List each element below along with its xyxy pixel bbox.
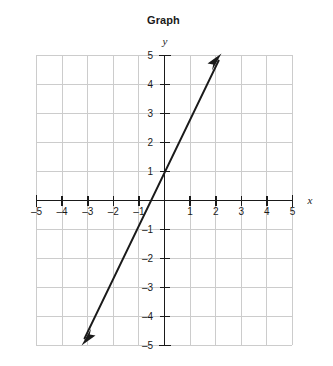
line-segment xyxy=(85,61,219,339)
x-tick-label-neg3: –3 xyxy=(82,206,94,217)
x-tick-label-neg4: –4 xyxy=(57,206,69,217)
coordinate-plane: –5 –4 –3 –2 –1 1 2 3 4 5 5 4 3 2 1 –1 –2… xyxy=(0,0,333,366)
graph-figure: Graph xyxy=(0,0,333,366)
x-tick-label-pos3: 3 xyxy=(239,206,245,217)
y-tick-label-neg5: –5 xyxy=(142,340,154,351)
y-tick-label-pos5: 5 xyxy=(147,50,153,61)
y-tick-label-neg2: –2 xyxy=(142,253,154,264)
y-tick-label-neg1: –1 xyxy=(142,224,154,235)
y-tick-label-pos1: 1 xyxy=(147,166,153,177)
axis-lines xyxy=(36,55,292,345)
x-tick-label-pos4: 4 xyxy=(264,206,270,217)
x-tick-label-pos5: 5 xyxy=(290,206,296,217)
x-tick-label-neg2: –2 xyxy=(108,206,120,217)
x-axis-label: x xyxy=(307,194,313,206)
plotted-line-series xyxy=(82,54,222,346)
y-tick-label-neg4: –4 xyxy=(142,311,154,322)
y-tick-label-pos3: 3 xyxy=(147,108,153,119)
y-axis-label: y xyxy=(162,35,168,47)
y-tick-label-neg3: –3 xyxy=(142,282,154,293)
x-tick-label-neg5: –5 xyxy=(31,206,43,217)
x-axis-tick-labels: –5 –4 –3 –2 –1 1 2 3 4 5 xyxy=(31,206,296,217)
x-tick-label-pos1: 1 xyxy=(187,206,193,217)
y-tick-label-pos2: 2 xyxy=(147,137,153,148)
x-tick-label-pos2: 2 xyxy=(213,206,219,217)
y-tick-label-pos4: 4 xyxy=(147,79,153,90)
